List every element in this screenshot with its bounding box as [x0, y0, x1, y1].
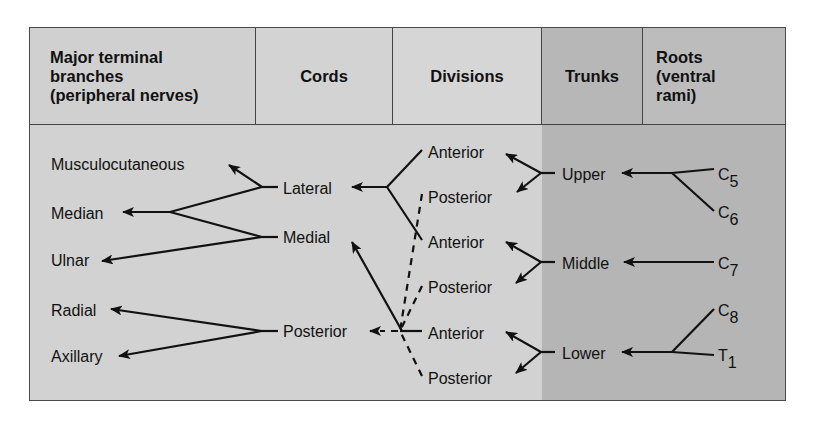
line-lower-anterior: [506, 332, 541, 352]
division-upper-posterior: Posterior: [428, 189, 493, 206]
trunk-middle: Middle: [562, 255, 609, 272]
root-c5: C5: [718, 166, 739, 190]
division-upper-anterior: Anterior: [428, 144, 485, 161]
svg-text:C6: C6: [718, 204, 739, 228]
line-medial-ulnar: [102, 237, 262, 261]
terminal-radial: Radial: [51, 302, 96, 319]
line-upper-anterior: [506, 154, 541, 173]
line-medial-median: [170, 212, 262, 237]
line-t1-lower: [672, 352, 714, 355]
line-middle-posterior: [516, 262, 541, 283]
root-c7: C7: [718, 255, 739, 279]
root-c6: C6: [718, 204, 739, 228]
cord-posterior: Posterior: [283, 323, 348, 340]
terminal-musculocutaneous: Musculocutaneous: [51, 156, 184, 173]
svg-text:T1: T1: [718, 347, 737, 371]
root-t1: T1: [718, 347, 737, 371]
division-middle-posterior: Posterior: [428, 279, 493, 296]
division-lower-posterior: Posterior: [428, 370, 493, 387]
line-lower-posterior: [516, 352, 541, 373]
line-posterior-axillary: [119, 331, 262, 356]
cord-medial: Medial: [283, 229, 330, 246]
terminal-axillary: Axillary: [51, 348, 103, 365]
line-lower-posterior-dashed: [400, 331, 422, 376]
line-middle-anterior: [506, 242, 541, 262]
line-lateral-musculocutaneous: [229, 165, 262, 187]
line-middle-anterior-lateral: [387, 187, 422, 240]
svg-text:C8: C8: [718, 302, 739, 326]
line-upper-anterior-lateral: [387, 150, 422, 187]
line-c6-upper: [672, 173, 714, 211]
trunk-lower: Lower: [562, 345, 606, 362]
line-c8-lower: [672, 309, 714, 352]
line-lateral-median: [170, 187, 262, 212]
division-lower-anterior: Anterior: [428, 325, 485, 342]
svg-text:C7: C7: [718, 255, 739, 279]
line-lower-anterior-medial: [352, 242, 402, 331]
division-middle-anterior: Anterior: [428, 234, 485, 251]
plexus-diagram: Musculocutaneous Median Ulnar Radial Axi…: [0, 0, 817, 423]
line-posterior-radial: [111, 309, 262, 331]
line-c5-upper: [672, 169, 714, 173]
line-middle-posterior-dashed: [400, 286, 422, 331]
trunk-upper: Upper: [562, 166, 606, 183]
terminal-ulnar: Ulnar: [51, 252, 90, 269]
line-upper-posterior: [517, 173, 541, 192]
svg-text:C5: C5: [718, 166, 739, 190]
root-c8: C8: [718, 302, 739, 326]
terminal-median: Median: [51, 205, 103, 222]
cord-lateral: Lateral: [283, 180, 332, 197]
